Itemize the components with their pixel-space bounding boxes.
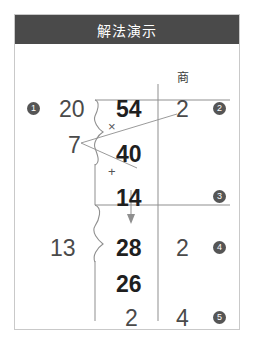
adjust-value: 7	[68, 134, 81, 157]
step-badge-2[interactable]: 2	[213, 102, 226, 115]
step-badge-1[interactable]: 1	[27, 102, 40, 115]
step-badge-4[interactable]: 4	[213, 241, 226, 254]
upper-division-bracket	[95, 100, 103, 165]
product-value: 40	[116, 143, 142, 166]
bring-down-arrow-head	[127, 214, 135, 224]
solution-demo-card: 解法演示 20	[14, 14, 240, 330]
quotient-first-digit: 2	[176, 98, 189, 121]
step-badge-5[interactable]: 5	[213, 311, 226, 324]
step-badge-3[interactable]: 3	[213, 190, 226, 203]
second-product-value: 26	[116, 273, 142, 296]
division-work-area: 20 7 13 × + 54 40 14 28 26 2 商 2 2 4 1 2…	[15, 44, 240, 330]
plus-operator: +	[108, 165, 116, 178]
lower-division-bracket	[94, 205, 103, 262]
actual-divisor-value: 13	[50, 237, 76, 260]
card-header: 解法演示	[15, 15, 239, 44]
page-title: 解法演示	[97, 20, 157, 40]
quotient-third-digit: 4	[176, 307, 189, 330]
dividend-value: 54	[116, 98, 142, 121]
quotient-second-digit: 2	[176, 237, 189, 260]
brought-down-value: 28	[116, 237, 142, 260]
final-remainder-value: 2	[125, 307, 138, 330]
quotient-header-label: 商	[177, 72, 189, 84]
multiply-operator: ×	[108, 120, 116, 133]
trial-divisor-value: 20	[59, 98, 85, 121]
first-remainder-value: 14	[116, 187, 142, 210]
